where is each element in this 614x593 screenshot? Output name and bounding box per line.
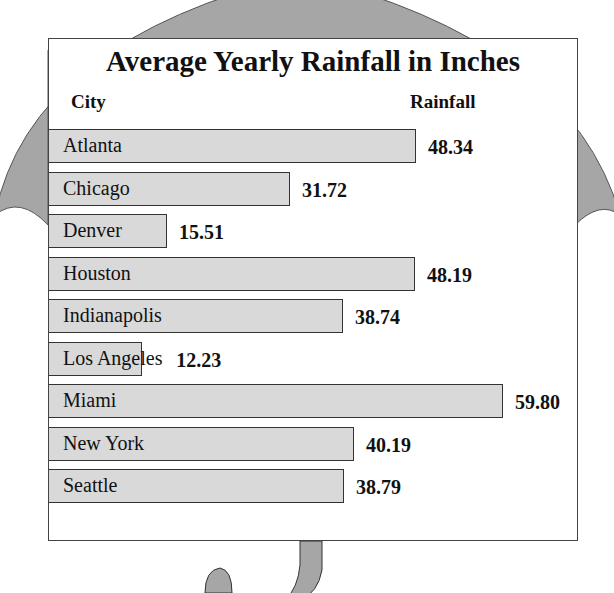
city-label: Miami [63, 389, 116, 412]
bar [49, 384, 503, 418]
rainfall-value: 40.19 [366, 434, 411, 457]
city-label: Seattle [63, 474, 117, 497]
rainfall-value: 48.19 [427, 264, 472, 287]
rainfall-value: 31.72 [302, 179, 347, 202]
chart-title: Average Yearly Rainfall in Inches [49, 45, 577, 78]
rainfall-column-header: Rainfall [410, 91, 475, 113]
city-label: Denver [63, 219, 122, 242]
city-label: Indianapolis [63, 304, 162, 327]
rainfall-value: 38.74 [355, 306, 400, 329]
rainfall-value: 12.23 [176, 349, 221, 372]
rainfall-value: 48.34 [428, 136, 473, 159]
city-label: New York [63, 432, 144, 455]
city-label: Los Angeles [63, 347, 162, 370]
rainfall-value: 38.79 [356, 476, 401, 499]
rainfall-value: 59.80 [515, 391, 560, 414]
chart-card: Average Yearly Rainfall in Inches City R… [48, 38, 578, 541]
city-label: Houston [63, 262, 131, 285]
city-label: Chicago [63, 177, 130, 200]
rainfall-value: 15.51 [179, 221, 224, 244]
city-column-header: City [71, 91, 106, 113]
city-label: Atlanta [63, 134, 122, 157]
